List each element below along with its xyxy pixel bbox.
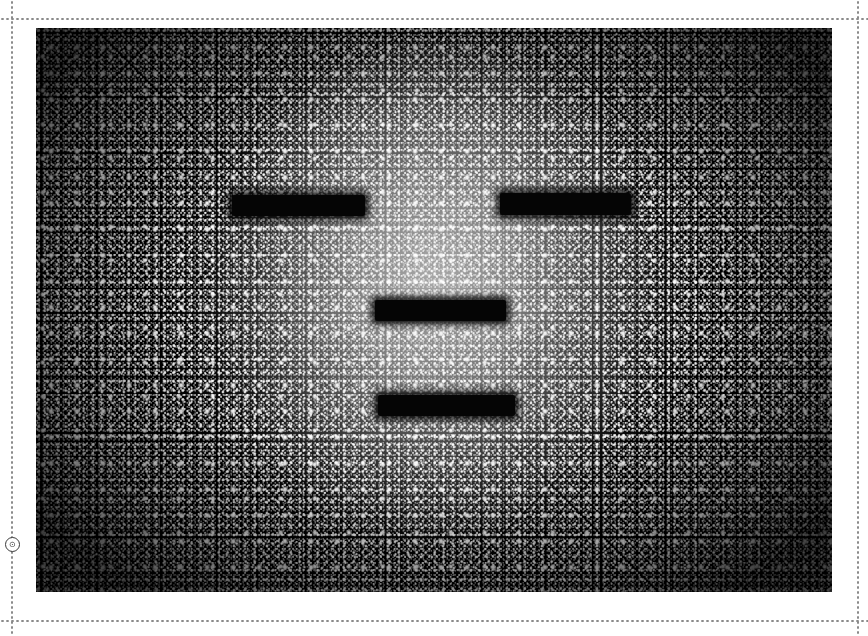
poster-caption: He is here <box>824 584 832 592</box>
poster-canvas: ⊙ He is here <box>0 0 868 636</box>
mouth-bar <box>378 395 515 416</box>
bottom-margin-guide <box>0 620 868 622</box>
condensation-face-photograph: He is here <box>36 28 832 592</box>
right-margin-guide <box>857 0 859 636</box>
nose-bar <box>375 300 506 321</box>
left-eye-bar <box>232 195 365 216</box>
right-eye-bar <box>500 193 631 215</box>
origin-marker-icon[interactable]: ⊙ <box>5 537 20 552</box>
top-margin-guide <box>0 18 868 20</box>
